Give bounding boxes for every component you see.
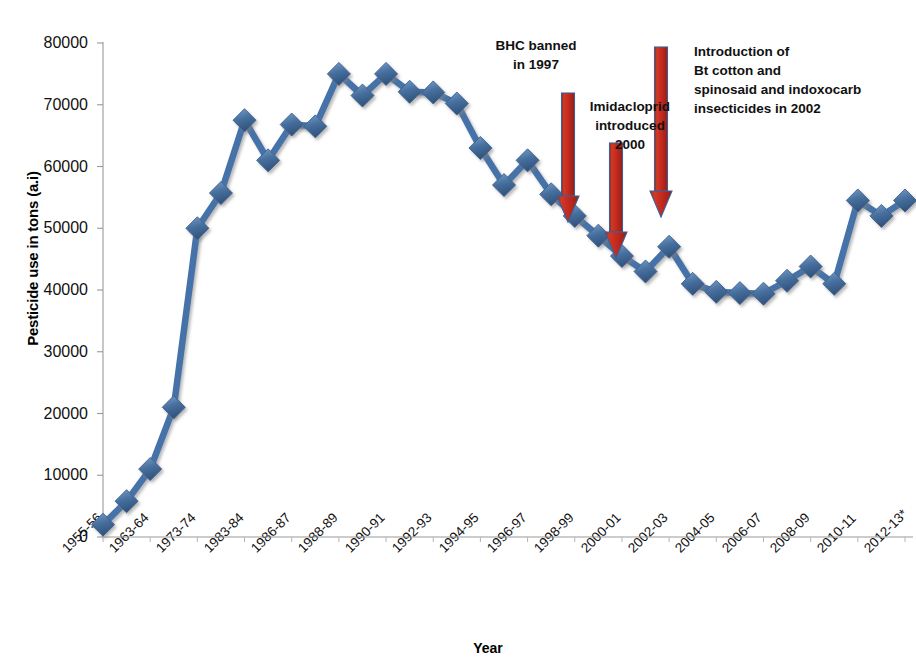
annotation-bhc-banned: BHC banned in 1997 bbox=[466, 36, 606, 74]
data-point-marker bbox=[705, 280, 728, 303]
chart-figure: Pesticide use in tons (a.i) 010000200003… bbox=[0, 0, 916, 667]
annotation-imidacloprid: Imidacloprid introduced 2000 bbox=[570, 97, 690, 154]
annotation-arrow-2 bbox=[605, 143, 627, 258]
data-point-marker bbox=[445, 92, 468, 115]
annotation-bt-cotton: Introduction of Bt cotton and spinosaid … bbox=[694, 42, 909, 119]
data-point-marker bbox=[162, 396, 185, 419]
data-point-marker bbox=[422, 81, 445, 104]
data-point-marker bbox=[304, 115, 327, 138]
data-point-marker bbox=[728, 282, 751, 305]
data-series bbox=[92, 62, 916, 536]
